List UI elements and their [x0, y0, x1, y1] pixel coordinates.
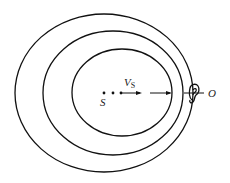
velocity-arrow: [121, 91, 142, 95]
observer-label: O: [208, 88, 216, 99]
velocity-subscript: S: [131, 81, 135, 90]
velocity-symbol: V: [124, 76, 131, 88]
source-position-dot-1: [103, 92, 106, 95]
ear-icon: [189, 84, 199, 103]
source-label: S: [100, 97, 106, 108]
diagram-canvas: [0, 0, 230, 183]
propagation-arrow-1: [150, 91, 172, 95]
velocity-label: VS: [124, 77, 135, 88]
source-position-dot-2: [112, 92, 115, 95]
